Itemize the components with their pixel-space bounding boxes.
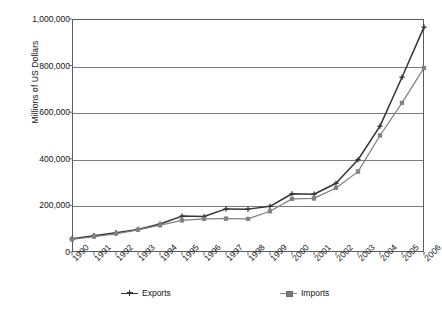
x-axis-tick-label: 1995 (180, 242, 201, 263)
legend-label-imports: Imports (301, 288, 329, 298)
x-axis-tick-label: 1999 (268, 242, 289, 263)
x-axis-tick-label: 1993 (136, 242, 157, 263)
x-axis-tick-label: 2006 (422, 242, 442, 263)
x-axis-tick-label: 1991 (92, 242, 113, 263)
x-axis-tick-label: 2005 (400, 242, 421, 263)
legend-label-exports: Exports (142, 288, 171, 298)
legend-item-exports: Exports (121, 288, 171, 298)
x-axis-tick-label: 1998 (246, 242, 267, 263)
x-axis-tick-label: 2003 (356, 242, 377, 263)
x-axis-tick-label: 1992 (114, 242, 135, 263)
line-chart: Millions of US Dollars 1,000,000800,0006… (0, 0, 442, 312)
chart-legend: Exports Imports (72, 288, 424, 306)
legend-marker-exports-icon (121, 289, 138, 298)
x-axis-tick-label: 1994 (158, 242, 179, 263)
legend-marker-imports-icon (280, 289, 297, 298)
x-axis-tick-label: 2002 (334, 242, 355, 263)
x-axis-tick-label: 1990 (70, 242, 91, 263)
legend-item-imports: Imports (280, 288, 329, 298)
x-axis-tick-label: 2004 (378, 242, 399, 263)
x-axis-tick-label: 1996 (202, 242, 223, 263)
x-axis-tick-label: 1997 (224, 242, 245, 263)
x-axis-tick-label: 2000 (290, 242, 311, 263)
x-axis-tick-label: 2001 (312, 242, 333, 263)
x-axis-tick-labels: 1990199119921993199419951996199719981999… (0, 0, 442, 312)
